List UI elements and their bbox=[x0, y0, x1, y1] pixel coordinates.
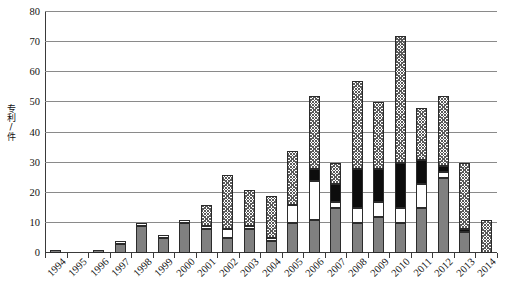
bar-segment-segment-2-white bbox=[222, 229, 233, 238]
bar-stack[interactable] bbox=[287, 151, 298, 253]
bar-segment-segment-2-white bbox=[330, 202, 341, 208]
x-axis-tick-labels: 1994199519961997199819992000200120022003… bbox=[45, 256, 497, 296]
bar-stack[interactable] bbox=[330, 163, 341, 253]
bar-segment-segment-4-hatch bbox=[416, 108, 427, 159]
bar-segment-segment-3-black bbox=[438, 166, 449, 172]
bar-segment-segment-1-gray bbox=[244, 229, 255, 253]
x-axis-tick-label: 2005 bbox=[278, 256, 304, 282]
bar-segment-segment-1-gray bbox=[416, 208, 427, 253]
x-axis-tick-label: 2004 bbox=[257, 256, 283, 282]
bar-segment-segment-3-black bbox=[416, 160, 427, 184]
bar-segment-segment-3-black bbox=[373, 169, 384, 202]
bar-segment-segment-3-black bbox=[352, 169, 363, 208]
plot-area bbox=[45, 12, 497, 253]
bar-segment-segment-4-hatch bbox=[459, 163, 470, 229]
x-axis-tick-label: 2008 bbox=[343, 256, 369, 282]
x-axis-tick-label: 1996 bbox=[84, 256, 110, 282]
bar-segment-segment-1-gray bbox=[373, 217, 384, 253]
bar-segment-segment-1-gray bbox=[287, 223, 298, 253]
y-axis-tick-label: 0 bbox=[22, 248, 40, 258]
bar-segment-segment-2-white bbox=[201, 226, 212, 229]
x-axis-tick-label: 2012 bbox=[429, 256, 455, 282]
bar-segment-segment-1-gray bbox=[136, 226, 147, 253]
bar-segment-segment-1-gray bbox=[115, 244, 126, 253]
bar-segment-segment-4-hatch bbox=[244, 190, 255, 226]
x-axis-tick-label: 2011 bbox=[407, 256, 433, 282]
bar-segment-segment-1-gray bbox=[201, 229, 212, 253]
y-axis-tick-label: 60 bbox=[22, 67, 40, 77]
x-axis-tick-label: 2006 bbox=[300, 256, 326, 282]
x-axis-tick-label: 1999 bbox=[149, 256, 175, 282]
bar-segment-segment-4-hatch bbox=[352, 81, 363, 168]
bar-segment-segment-4-hatch bbox=[330, 163, 341, 184]
y-axis-tick-label: 30 bbox=[22, 158, 40, 168]
bar-segment-segment-2-white bbox=[158, 235, 169, 238]
bar-stack[interactable] bbox=[201, 205, 212, 253]
bar-stack[interactable] bbox=[158, 235, 169, 253]
bar-segment-segment-3-black bbox=[395, 163, 406, 208]
bar-segment-segment-4-hatch bbox=[222, 175, 233, 229]
bar-segment-segment-3-black bbox=[330, 184, 341, 202]
x-axis-tick-label: 2002 bbox=[214, 256, 240, 282]
bar-segment-segment-1-gray bbox=[352, 223, 363, 253]
bar-stack[interactable] bbox=[481, 220, 492, 253]
bar-segment-segment-4-hatch bbox=[481, 220, 492, 253]
bar-stack[interactable] bbox=[266, 196, 277, 253]
bar-stack[interactable] bbox=[459, 163, 470, 253]
bar-segment-segment-2-white bbox=[373, 202, 384, 217]
bar-segment-segment-1-gray bbox=[330, 208, 341, 253]
bar-stack[interactable] bbox=[352, 81, 363, 253]
bar-segment-segment-2-white bbox=[416, 184, 427, 208]
x-axis-tick bbox=[497, 253, 498, 258]
bar-stack[interactable] bbox=[115, 241, 126, 253]
bar-segment-segment-2-white bbox=[115, 241, 126, 244]
y-axis-tick-labels: 01020304050607080 bbox=[18, 0, 40, 296]
bar-segment-segment-4-hatch bbox=[201, 205, 212, 226]
bar-segment-segment-4-hatch bbox=[266, 196, 277, 238]
bar-segment-segment-2-white bbox=[136, 223, 147, 226]
bar-stack[interactable] bbox=[373, 102, 384, 253]
x-axis-tick-label: 2001 bbox=[192, 256, 218, 282]
x-axis-tick-label: 1995 bbox=[63, 256, 89, 282]
bar-stack[interactable] bbox=[309, 96, 320, 253]
bar-segment-segment-2-white bbox=[395, 208, 406, 223]
x-axis-tick-label: 2000 bbox=[171, 256, 197, 282]
bar-segment-segment-2-white bbox=[244, 226, 255, 229]
bar-segment-segment-1-gray bbox=[395, 223, 406, 253]
bar-segment-segment-3-black bbox=[459, 229, 470, 232]
y-axis-tick-label: 50 bbox=[22, 97, 40, 107]
bar-stack[interactable] bbox=[179, 220, 190, 253]
bar-segment-segment-1-gray bbox=[179, 223, 190, 253]
bar-stack[interactable] bbox=[222, 175, 233, 253]
y-axis-title: 专利/件 bbox=[2, 104, 16, 141]
bar-segment-segment-4-hatch bbox=[395, 36, 406, 163]
bar-segment-segment-2-white bbox=[309, 181, 320, 220]
y-axis-tick-label: 10 bbox=[22, 218, 40, 228]
bar-segment-segment-2-white bbox=[179, 220, 190, 223]
y-axis-tick-label: 80 bbox=[22, 7, 40, 17]
x-axis-tick-label: 2013 bbox=[450, 256, 476, 282]
bar-segment-segment-1-gray bbox=[158, 238, 169, 253]
y-axis-tick-label: 70 bbox=[22, 37, 40, 47]
bar-stack[interactable] bbox=[416, 108, 427, 253]
x-axis-tick-label: 2014 bbox=[472, 256, 498, 282]
bar-stack[interactable] bbox=[438, 96, 449, 253]
bar-segment-segment-1-gray bbox=[309, 220, 320, 253]
x-axis-tick-label: 2003 bbox=[235, 256, 261, 282]
bar-segment-segment-4-hatch bbox=[287, 151, 298, 205]
bar-segment-segment-2-white bbox=[266, 238, 277, 241]
x-axis-tick-label: 1994 bbox=[41, 256, 67, 282]
bar-stack[interactable] bbox=[244, 190, 255, 253]
x-axis-tick-label: 2010 bbox=[386, 256, 412, 282]
bar-segment-segment-1-gray bbox=[459, 232, 470, 253]
y-axis-tick-label: 20 bbox=[22, 188, 40, 198]
patent-bar-chart: 专利/件 01020304050607080 19941995199619971… bbox=[0, 0, 509, 296]
bar-stack[interactable] bbox=[136, 223, 147, 253]
bar-segment-segment-3-black bbox=[309, 169, 320, 181]
x-axis-tick-label: 2009 bbox=[364, 256, 390, 282]
y-axis-tick-label: 40 bbox=[22, 128, 40, 138]
bar-segment-segment-2-white bbox=[287, 205, 298, 223]
bar-stack[interactable] bbox=[395, 36, 406, 253]
bar-segment-segment-4-hatch bbox=[309, 96, 320, 168]
bar-segment-segment-2-white bbox=[352, 208, 363, 223]
